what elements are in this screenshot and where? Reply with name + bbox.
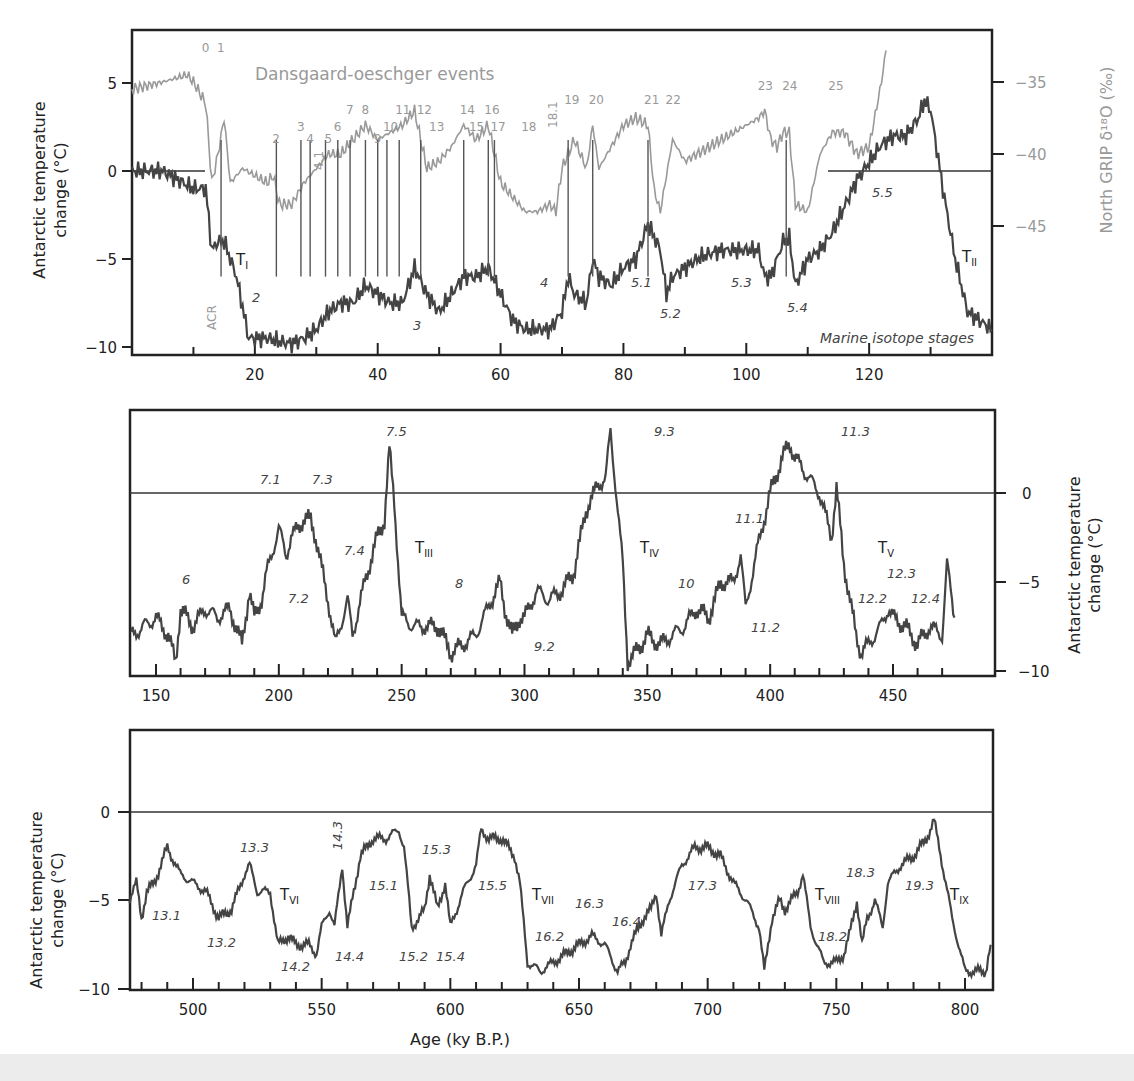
xtick-label: 40 [368, 366, 387, 384]
bottom-panel: 500550600650700750800 0 −5 −10 Antarctic… [27, 730, 993, 1049]
mis-label: 15.5 [478, 878, 507, 893]
ytick-m10: −10 [85, 339, 117, 357]
bot-ytick-m5: −5 [88, 892, 110, 910]
mis-label: 16.2 [535, 929, 564, 944]
mis-label: 10 [678, 576, 695, 591]
do-label: 9 [374, 132, 382, 146]
mis-label: 19.3 [905, 878, 934, 893]
xtick-label: 650 [565, 1001, 594, 1019]
bot-ylabel-line1: Antarctic temperature [27, 811, 46, 988]
y2tick-m45: −45 [1015, 218, 1047, 236]
mis-label: 12.2 [858, 591, 887, 606]
do-label: 0 [202, 41, 210, 55]
y2tick-m40: −40 [1015, 146, 1047, 164]
mid-ytick-m5: −5 [1018, 574, 1040, 592]
grip-d18o-series [132, 51, 886, 217]
xtick-label: 400 [756, 687, 785, 705]
mis-label: 17.3 [688, 878, 717, 893]
top-y2-axis: −35 −40 −45 North GRIP δ¹⁸O (‰) [992, 66, 1116, 236]
mis-label: 16.3 [575, 896, 604, 911]
bottom-y-axis: 0 −5 −10 [78, 804, 130, 999]
top-ylabel-line1: Antarctic temperature [30, 101, 49, 278]
termination-IX: TIX [949, 886, 969, 906]
mis-label: 7.4 [344, 543, 365, 558]
xtick-label: 120 [855, 366, 884, 384]
mis-label: 13.2 [207, 935, 236, 950]
top-antarctic-series [132, 96, 992, 353]
do-label: 16 [484, 103, 499, 117]
bot-ytick-0: 0 [100, 804, 110, 822]
mis-label: 5.3 [731, 275, 752, 290]
mis-label: 7.3 [312, 472, 333, 487]
do-label: 4 [306, 132, 314, 146]
ytick-0: 0 [107, 163, 117, 181]
do-label: 17 [490, 120, 505, 134]
termination-V: TV [877, 539, 894, 559]
do-label: 23 [758, 79, 773, 93]
termination-IV: TIV [639, 539, 659, 559]
mis-label: 15.2 [399, 949, 428, 964]
xtick-label: 550 [307, 1001, 336, 1019]
do-label: 2 [272, 132, 280, 146]
xtick-label: 700 [693, 1001, 722, 1019]
y2-axis-label: North GRIP δ¹⁸O (‰) [1097, 66, 1116, 233]
termination-II: TII [961, 248, 977, 268]
mis-label: 12.3 [887, 566, 916, 581]
xtick-label: 80 [614, 366, 633, 384]
do-label: 18 [521, 120, 536, 134]
mis-label: 12.4 [911, 591, 940, 606]
middle-antarctic-series [131, 428, 954, 671]
acr-label: ACR [205, 305, 219, 330]
termination-VIII: TVIII [814, 886, 840, 906]
figure: 20406080100120 5 0 −5 −10 −35 −40 −45 No… [0, 0, 1134, 1081]
do-label: 20 [589, 93, 604, 107]
xtick-label: 300 [510, 687, 539, 705]
mis-label: 4 [540, 275, 548, 290]
mid-ylabel-line2: change (°C) [1085, 517, 1104, 613]
do-label: 6 [334, 120, 342, 134]
xtick-label: 600 [436, 1001, 465, 1019]
mis-caption: Marine isotope stages [820, 330, 974, 346]
middle-x-ticks: 150200250300350400450 [142, 664, 942, 705]
middle-panel: 150200250300350400450 0 −5 −10 Antarctic… [130, 410, 1104, 705]
middle-panel-frame [130, 410, 995, 676]
xtick-label: 800 [951, 1001, 980, 1019]
ytick-5: 5 [107, 75, 117, 93]
do-label: 13 [429, 120, 444, 134]
mis-label: 6 [182, 572, 190, 587]
mis-label: 14.3 [330, 821, 345, 850]
xtick-label: 350 [633, 687, 662, 705]
termination-III: TIII [414, 539, 433, 559]
xtick-label: 20 [245, 366, 264, 384]
bot-ylabel-line2: change (°C) [48, 852, 67, 948]
xtick-label: 750 [822, 1001, 851, 1019]
mis-label: 11.1 [735, 511, 764, 526]
mis-label: 9.2 [534, 639, 555, 654]
y2tick-m35: −35 [1015, 74, 1047, 92]
top-x-ticks: 20406080100120 [193, 343, 930, 384]
mis-label: 5.5 [872, 185, 893, 200]
mis-label: 14.4 [335, 949, 364, 964]
mis-label: 5.4 [787, 300, 808, 315]
mis-label: 8 [455, 576, 463, 591]
xtick-label: 250 [387, 687, 416, 705]
xtick-label: 100 [732, 366, 761, 384]
do-label: 3 [297, 120, 305, 134]
middle-y-axis: 0 −5 −10 [995, 485, 1050, 681]
mid-ylabel-line1: Antarctic temperature [1065, 476, 1084, 653]
mis-label: 11.3 [841, 424, 870, 439]
do-label: 4.1 [312, 151, 326, 170]
xtick-label: 200 [265, 687, 294, 705]
do-label: 22 [666, 93, 681, 107]
mis-label: 11.2 [751, 620, 780, 635]
x-axis-label: Age (ky B.P.) [410, 1030, 510, 1049]
do-label: 14 [460, 103, 475, 117]
do-label: 25 [828, 79, 843, 93]
do-label: 1 [217, 41, 225, 55]
mis-label: 16.4 [612, 914, 641, 929]
bottom-panel-frame [130, 730, 993, 990]
termination-VI: TVI [279, 886, 299, 906]
middle-mis-labels: 67.17.27.37.47.589.29.31011.111.211.312.… [182, 424, 940, 654]
mis-label: 14.2 [281, 959, 310, 974]
do-label: 21 [644, 93, 659, 107]
